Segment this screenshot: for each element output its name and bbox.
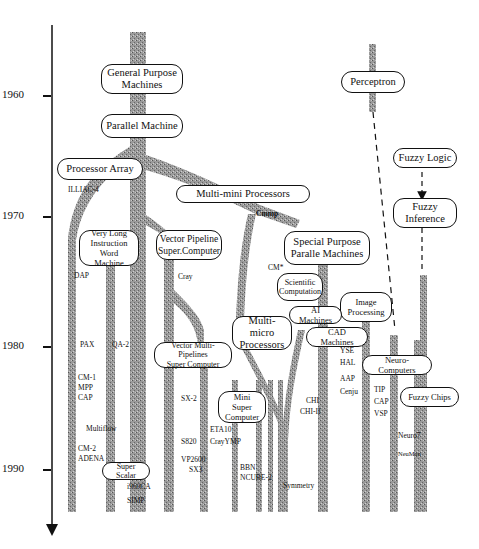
year-label-1990: 1990	[2, 462, 24, 474]
node-parallel-machine: Parallel Machine	[101, 114, 183, 138]
machine-label: NeuMan	[398, 449, 421, 458]
year-label-1970: 1970	[2, 209, 24, 221]
machine-label: ETA10	[210, 425, 231, 434]
machine-label: CM-1	[78, 373, 96, 382]
year-tick	[43, 469, 51, 471]
node-perceptron: Perceptron	[341, 71, 405, 93]
machine-label: MPP	[78, 383, 93, 392]
node-image-processing: Image Processing	[340, 292, 392, 322]
year-label-1960: 1960	[2, 88, 24, 100]
node-neuro-computers: Neuro-Computers	[362, 355, 432, 375]
branch-vector-multi	[200, 345, 208, 512]
branch-cmmp	[236, 214, 256, 320]
machine-label: SX-2	[181, 394, 197, 403]
machine-label: QA-2	[112, 340, 129, 349]
machine-label: CAP	[78, 393, 93, 402]
node-special-purpose: Special Purpose Paralle Machines	[284, 231, 370, 265]
machine-label: CM-2	[78, 444, 96, 453]
node-multi-mini: Multi-mini Processors	[176, 185, 310, 203]
machine-label: CHI	[306, 396, 319, 405]
machine-label: PAX	[80, 340, 94, 349]
year-tick	[43, 346, 51, 348]
machine-label: SX3	[189, 465, 202, 474]
machine-label: AAP	[340, 374, 355, 383]
machine-label: S820	[181, 437, 196, 446]
machine-label: ILLIAC-4	[68, 185, 99, 194]
node-scientific: Scientific Computation	[277, 273, 323, 301]
machine-label: Symmetry	[283, 481, 314, 490]
node-fuzzy-logic: Fuzzy Logic	[393, 148, 457, 168]
node-cad-machines: CAD Machines	[306, 327, 368, 347]
machine-label: Multiflow	[86, 424, 116, 433]
machine-label: NCUBE-2	[240, 473, 272, 482]
machine-label: VSP	[374, 409, 388, 418]
node-vliw: Very Long Instruction Word Machine	[79, 230, 139, 266]
year-tick	[43, 216, 51, 218]
trunk-general	[130, 32, 146, 512]
node-fuzzy-chips: Fuzzy Chips	[400, 387, 459, 407]
machine-label: SIMP	[127, 496, 145, 505]
machine-label: Cmmp	[256, 209, 278, 218]
machine-label: DAP	[74, 271, 89, 280]
machine-label: VP2600	[181, 455, 206, 464]
node-processor-array: Processor Array	[57, 158, 143, 180]
machine-label: HAL	[340, 358, 355, 367]
machine-label: Cenju	[340, 387, 358, 396]
machine-label: Cray	[178, 272, 193, 281]
machine-label: TIP	[374, 385, 385, 394]
node-super-scalar: Super Scalar	[102, 462, 150, 480]
year-label-1980: 1980	[2, 339, 24, 351]
machine-label: CHI-II	[300, 407, 320, 416]
machine-label: BBN	[240, 463, 255, 472]
machine-label: i960CA	[127, 482, 151, 491]
node-vector-multi-pipelines: Vector Multi-Pipelines Super Computer	[154, 342, 232, 368]
node-mini-super: Mini Super Computer	[218, 391, 266, 423]
machine-label: YSE	[340, 346, 354, 355]
node-fuzzy-inference: Fuzzy Inference	[393, 198, 457, 228]
machine-label: CrayYMP	[210, 437, 241, 446]
machine-label: CAP	[374, 397, 389, 406]
year-tick	[43, 95, 51, 97]
node-multi-micro: Multi-micro Processors	[232, 316, 292, 350]
node-ai-machines: AI Machines	[289, 306, 342, 324]
node-vector-pipeline: Vector Pipeline Super.Computer	[156, 230, 222, 260]
machine-label: Neuro7	[398, 431, 421, 440]
machine-label: ADENA	[78, 454, 104, 463]
node-general-purpose: General Purpose Machines	[101, 64, 183, 94]
machine-label: CM*	[268, 263, 283, 272]
